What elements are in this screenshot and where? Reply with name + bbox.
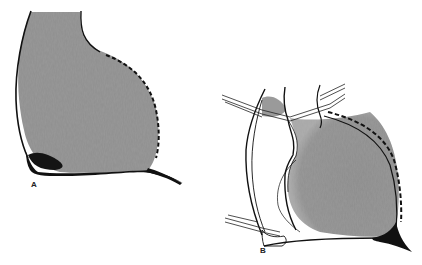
panel-a-label: A — [31, 180, 37, 189]
figure: A B — [0, 0, 422, 265]
panel-b-base-line — [264, 238, 380, 246]
figure-illustration — [0, 0, 422, 265]
panel-b — [222, 84, 412, 252]
panel-b-label: B — [260, 246, 266, 255]
panel-b-small-shade — [262, 97, 286, 117]
panel-b-lower-vessel-lines — [225, 215, 280, 236]
panel-b-vessel-lines — [222, 84, 345, 121]
panel-a — [16, 11, 183, 185]
